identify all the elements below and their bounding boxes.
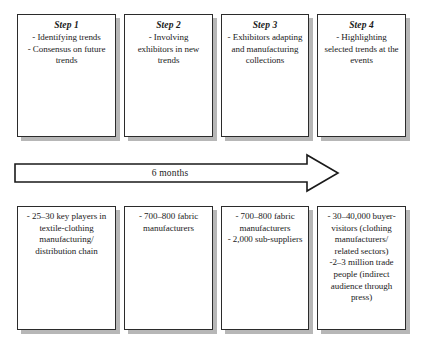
step-box-3: Step 3 - Exhibitors adapting and manufac… <box>221 14 309 137</box>
detail-1-body: - 25–30 key players in textile-clothing … <box>23 211 110 257</box>
step-box-4: Step 4 - Highlighting selected trends at… <box>317 14 406 137</box>
detail-box-1: - 25–30 key players in textile-clothing … <box>17 206 116 330</box>
step-1-body: - Identifying trends - Consensus on futu… <box>23 32 110 67</box>
step-4-title: Step 4 <box>323 19 400 31</box>
detail-2-body: - 700–800 fabric manufacturers <box>130 211 207 234</box>
timeline-arrow-icon <box>14 152 340 194</box>
detail-box-4: - 30–40,000 buyer-visitors (clothing man… <box>317 206 406 330</box>
detail-3-body: - 700–800 fabric manufacturers - 2,000 s… <box>227 211 303 246</box>
step-1-title: Step 1 <box>23 19 110 31</box>
step-3-body: - Exhibitors adapting and manufacturing … <box>227 32 303 67</box>
step-3-title: Step 3 <box>227 19 303 31</box>
step-2-title: Step 2 <box>130 19 207 31</box>
detail-box-3: - 700–800 fabric manufacturers - 2,000 s… <box>221 206 309 330</box>
detail-box-2: - 700–800 fabric manufacturers <box>124 206 213 330</box>
step-2-body: - Involving exhibitors in new trends <box>130 32 207 67</box>
step-box-1: Step 1 - Identifying trends - Consensus … <box>17 14 116 137</box>
detail-4-body: - 30–40,000 buyer-visitors (clothing man… <box>323 211 400 304</box>
step-box-2: Step 2 - Involving exhibitors in new tre… <box>124 14 213 137</box>
process-flow-diagram: Step 1 - Identifying trends - Consensus … <box>0 0 427 347</box>
step-4-body: - Highlighting selected trends at the ev… <box>323 32 400 67</box>
